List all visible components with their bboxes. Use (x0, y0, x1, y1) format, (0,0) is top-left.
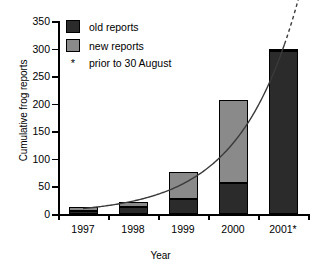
y-tick-label: 200 (14, 99, 50, 109)
legend-swatch-new-icon (66, 39, 80, 52)
asterisk-icon: * (66, 57, 80, 69)
x-tick (308, 214, 310, 220)
y-tick-label: 100 (14, 154, 50, 164)
x-tick (208, 214, 210, 220)
y-tick-label: 0 (14, 209, 50, 219)
legend-footnote-text: prior to 30 August (89, 57, 171, 69)
x-axis-line (58, 214, 308, 216)
x-tick (158, 214, 160, 220)
legend-item-old-reports: old reports (66, 18, 171, 35)
x-tick-label: 2001* (253, 223, 313, 235)
y-tick-label: 50 (14, 181, 50, 191)
chart-legend: old reports new reports * prior to 30 Au… (66, 18, 171, 69)
y-tick-label: 250 (14, 71, 50, 81)
legend-swatch-old-icon (66, 20, 80, 33)
x-tick (108, 214, 110, 220)
chart-root: Cumulative frog reports Year 05010015020… (0, 0, 321, 270)
x-tick (258, 214, 260, 220)
x-tick (58, 214, 60, 220)
y-tick-label: 300 (14, 44, 50, 54)
legend-label-new: new reports (89, 40, 144, 52)
legend-item-new-reports: new reports (66, 37, 171, 54)
legend-footnote: * prior to 30 August (66, 57, 171, 69)
y-tick-label: 150 (14, 126, 50, 136)
legend-label-old: old reports (89, 21, 139, 33)
y-tick-label: 350 (14, 16, 50, 26)
x-axis-title: Year (0, 250, 321, 261)
trend-curve-dashed (285, 0, 321, 44)
